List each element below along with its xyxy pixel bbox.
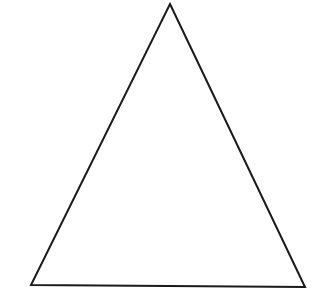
triangle-shape [31, 4, 305, 287]
diagram-canvas [0, 0, 323, 306]
